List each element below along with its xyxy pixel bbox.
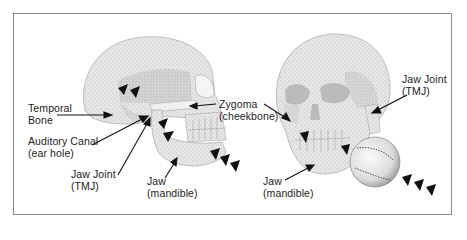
label-jaw-left: Jaw (mandible) (147, 175, 198, 199)
label-line: Jaw Joint (402, 73, 447, 85)
label-temporal-bone: Temporal Bone (28, 102, 72, 126)
label-line: Temporal (28, 102, 72, 114)
label-line: Auditory Canal (28, 135, 98, 147)
label-line: (mandible) (263, 187, 314, 199)
label-auditory-canal: Auditory Canal (ear hole) (28, 135, 98, 159)
label-line: (mandible) (147, 187, 198, 199)
label-zygoma: Zygoma (cheekbone) (219, 98, 278, 122)
label-line: Jaw (147, 175, 198, 187)
label-line: Jaw Joint (71, 168, 116, 180)
label-line: Jaw (263, 175, 314, 187)
label-line: (TMJ) (402, 85, 447, 97)
label-line: (TMJ) (71, 180, 116, 192)
label-line: (cheekbone) (219, 110, 278, 122)
left-skull (83, 37, 226, 166)
label-line: (ear hole) (28, 147, 98, 159)
label-jaw-right: Jaw (mandible) (263, 175, 314, 199)
label-jaw-joint-left: Jaw Joint (TMJ) (71, 168, 116, 192)
label-line: Zygoma (219, 98, 278, 110)
label-jaw-joint-right: Jaw Joint (TMJ) (402, 73, 447, 97)
baseball-illustration (350, 137, 400, 187)
label-line: Bone (28, 114, 72, 126)
